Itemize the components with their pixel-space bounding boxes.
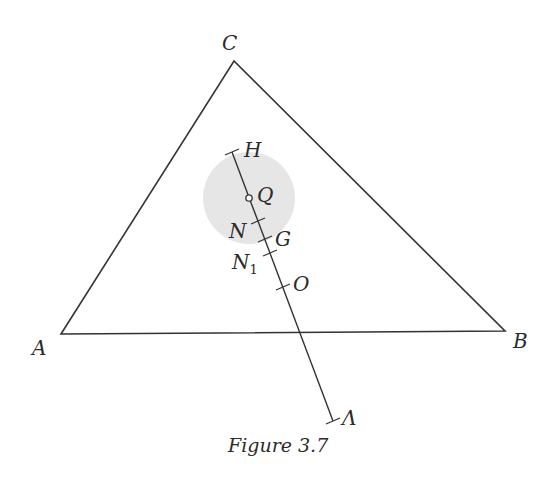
label-vertex-c: C — [222, 31, 237, 55]
label-g: G — [275, 227, 291, 251]
label-n1-subscript: 1 — [250, 262, 258, 277]
label-q: Q — [257, 183, 273, 207]
figure-caption: Figure 3.7 — [227, 434, 329, 456]
label-vertex-b: B — [512, 329, 528, 353]
label-n1-main: N — [231, 250, 251, 274]
tick-lambda — [326, 418, 340, 424]
geometry-figure: C A B H Q N G N1 O Λ Figure 3.7 — [0, 0, 556, 487]
label-o: O — [293, 272, 309, 296]
label-n1: N1 — [231, 250, 258, 277]
label-vertex-a: A — [30, 336, 46, 360]
label-lambda: Λ — [340, 406, 356, 430]
point-q-marker — [246, 195, 252, 201]
label-h: H — [243, 138, 262, 162]
label-n: N — [228, 219, 248, 243]
